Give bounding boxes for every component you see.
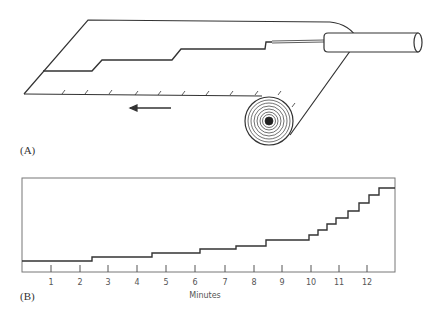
paper-roll <box>245 97 293 145</box>
x-axis-ticks <box>51 265 367 272</box>
svg-text:11: 11 <box>334 278 344 287</box>
svg-text:9: 9 <box>279 278 284 287</box>
cumulative-record-line <box>22 188 395 261</box>
panel-a-recorder-diagram <box>24 20 422 145</box>
panel-b-label: (B) <box>20 290 35 303</box>
recorded-trace <box>43 42 272 71</box>
panel-a-label: (A) <box>20 144 36 157</box>
svg-text:8: 8 <box>251 278 256 287</box>
svg-text:1: 1 <box>48 278 53 287</box>
paper-bottom-edge <box>24 94 262 96</box>
svg-text:4: 4 <box>134 278 139 287</box>
svg-text:7: 7 <box>222 278 227 287</box>
pen-cylinder <box>324 33 422 52</box>
panel-b-chart: 1 2 3 4 5 6 7 8 9 10 11 12 Minutes <box>22 178 395 300</box>
svg-text:3: 3 <box>105 278 110 287</box>
x-axis-title: Minutes <box>189 291 221 300</box>
svg-text:10: 10 <box>306 278 316 287</box>
x-tick-labels: 1 2 3 4 5 6 7 8 9 10 11 12 <box>48 278 372 287</box>
chart-frame <box>22 178 395 272</box>
svg-text:5: 5 <box>163 278 168 287</box>
svg-text:2: 2 <box>77 278 82 287</box>
svg-text:12: 12 <box>362 278 372 287</box>
figure-canvas: (A) 1 2 3 4 5 6 7 8 9 10 <box>0 0 442 316</box>
svg-text:6: 6 <box>192 278 197 287</box>
paper-direction-arrow-icon <box>130 105 171 111</box>
pen-arm <box>272 40 324 43</box>
paper-sheet <box>24 20 358 135</box>
